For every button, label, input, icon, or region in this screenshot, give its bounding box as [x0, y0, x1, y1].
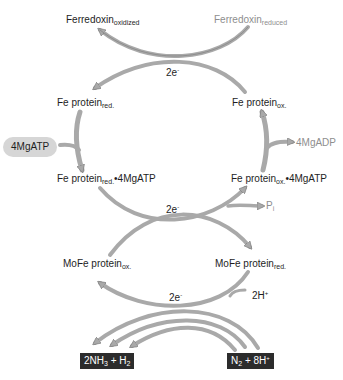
mofe-protein-red-label: MoFe proteinred. [215, 258, 286, 270]
products-box: 2NH3 + H2 [80, 353, 134, 369]
arrow-mgatp-in [60, 145, 79, 150]
mgadp-output-label: 4MgADP [296, 137, 336, 149]
electron-label-middle: 2e- [166, 204, 179, 216]
fe-protein-red-atp-label: Fe proteinred.•4MgATP [57, 173, 156, 185]
mgatp-input-pill: 4MgATP [3, 137, 57, 157]
arrow-pi-out [228, 205, 262, 206]
ferredoxin-reduced-label: Ferredoxinreduced [214, 14, 287, 26]
arrows-layer [0, 0, 343, 380]
arrow-ferredoxin [100, 27, 248, 56]
substrates-box: N2 + 8H+ [227, 353, 274, 369]
mofe-protein-ox-label: MoFe proteinox. [63, 258, 131, 270]
arrow-substrate-2 [112, 320, 245, 347]
arrow-fe-ox-up [262, 112, 267, 170]
fe-protein-red-label: Fe proteinred. [57, 97, 114, 109]
protons-label: 2H+ [252, 290, 268, 302]
arrow-fe-red-down [76, 112, 82, 170]
fe-protein-ox-label: Fe proteinox. [232, 97, 286, 109]
arrow-mgadp-out [267, 142, 292, 148]
ferredoxin-oxidized-label: Ferredoxinoxidized [66, 14, 140, 26]
phosphate-label: Pi [266, 200, 274, 212]
electron-label-top: 2e- [166, 67, 179, 79]
electron-label-bottom: 2e- [169, 292, 182, 304]
fe-protein-ox-atp-label: Fe proteinox.•4MgATP [231, 173, 327, 185]
arrow-substrate-3 [132, 328, 235, 350]
